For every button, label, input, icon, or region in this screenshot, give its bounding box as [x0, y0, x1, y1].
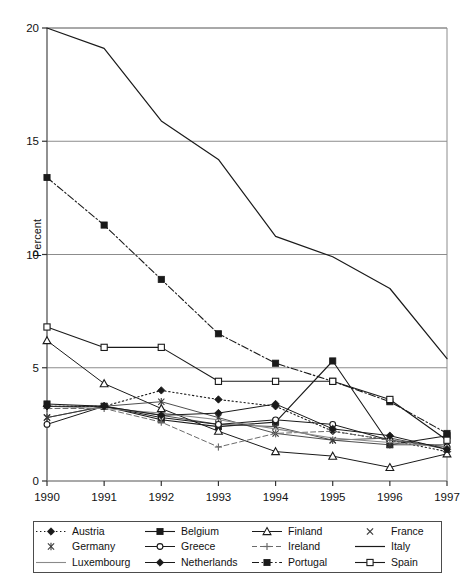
legend-item-austria[interactable]: Austria	[34, 524, 143, 539]
legend-label-italy: Italy	[391, 541, 410, 552]
legend-marker-luxembourg-icon	[34, 556, 68, 569]
legend-marker-italy-icon	[353, 540, 387, 553]
series-italy	[47, 28, 447, 359]
legend-marker-austria-icon	[34, 525, 68, 538]
legend-marker-netherlands-icon	[143, 556, 177, 569]
y-tick-label: 5	[33, 362, 39, 374]
chart-figure: 0510152019901991199219931994199519961997…	[0, 0, 474, 583]
y-axis-title: Percent	[31, 203, 43, 273]
legend-marker-belgium-icon	[143, 525, 177, 538]
legend-marker-greece-icon	[143, 540, 177, 553]
legend-item-belgium[interactable]: Belgium	[143, 524, 250, 539]
legend-label-finland: Finland	[288, 526, 322, 537]
legend-marker-finland-icon	[250, 525, 284, 538]
chart-svg: 0510152019901991199219931994199519961997	[0, 0, 474, 512]
x-tick-label: 1994	[263, 491, 289, 503]
chart-legend: AustriaBelgiumFinlandFranceGermanyGreece…	[33, 521, 442, 573]
legend-item-netherlands[interactable]: Netherlands	[143, 555, 250, 570]
legend-item-portugal[interactable]: Portugal	[250, 555, 353, 570]
legend-marker-portugal-icon	[250, 556, 284, 569]
x-tick-label: 1991	[91, 491, 117, 503]
legend-item-spain[interactable]: Spain	[353, 555, 441, 570]
series-ireland	[43, 405, 450, 451]
x-tick-label: 1993	[206, 491, 232, 503]
x-tick-label: 1995	[320, 491, 346, 503]
legend-grid: AustriaBelgiumFinlandFranceGermanyGreece…	[34, 522, 441, 572]
legend-item-ireland[interactable]: Ireland	[250, 539, 353, 554]
legend-item-finland[interactable]: Finland	[250, 524, 353, 539]
legend-item-france[interactable]: France	[353, 524, 441, 539]
y-tick-label: 15	[26, 135, 39, 147]
legend-label-ireland: Ireland	[288, 541, 320, 552]
legend-label-france: France	[391, 526, 424, 537]
legend-item-italy[interactable]: Italy	[353, 539, 441, 554]
legend-label-luxembourg: Luxembourg	[72, 557, 130, 568]
legend-label-spain: Spain	[391, 557, 418, 568]
legend-marker-spain-icon	[353, 556, 387, 569]
plot-area: 0510152019901991199219931994199519961997	[0, 0, 474, 512]
legend-label-germany: Germany	[72, 541, 115, 552]
legend-label-austria: Austria	[72, 526, 105, 537]
legend-marker-france-icon	[353, 525, 387, 538]
legend-label-greece: Greece	[181, 541, 215, 552]
x-tick-label: 1990	[34, 491, 60, 503]
y-tick-label: 20	[26, 22, 39, 34]
x-tick-label: 1997	[434, 491, 460, 503]
legend-item-greece[interactable]: Greece	[143, 539, 250, 554]
x-tick-label: 1992	[148, 491, 174, 503]
legend-label-belgium: Belgium	[181, 526, 219, 537]
legend-label-netherlands: Netherlands	[181, 557, 238, 568]
x-tick-label: 1996	[377, 491, 403, 503]
y-tick-label: 0	[33, 475, 39, 487]
legend-item-germany[interactable]: Germany	[34, 539, 143, 554]
legend-marker-germany-icon	[34, 540, 68, 553]
legend-item-luxembourg[interactable]: Luxembourg	[34, 555, 143, 570]
legend-marker-ireland-icon	[250, 540, 284, 553]
legend-label-portugal: Portugal	[288, 557, 327, 568]
